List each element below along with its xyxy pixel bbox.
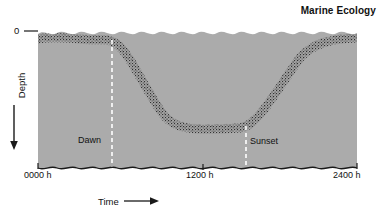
marine-ecology-plot [0, 0, 384, 219]
figure-container: Marine Ecology 0 Depth 0000 h 1200 h 240… [0, 0, 384, 219]
x-axis-title: Time [98, 196, 119, 207]
sunset-label: Sunset [250, 136, 278, 146]
x-axis-tick-label-2400h: 2400 h [333, 170, 361, 180]
page-title: Marine Ecology [301, 5, 376, 16]
y-axis-tick-label-0: 0 [14, 25, 19, 36]
time-arrow-icon [124, 197, 159, 205]
x-axis-tick-label-1200h: 1200 h [186, 170, 214, 180]
y-axis-title: Depth [16, 56, 27, 116]
x-axis-tick-label-0000h: 0000 h [24, 170, 52, 180]
dawn-label: Dawn [78, 135, 101, 145]
